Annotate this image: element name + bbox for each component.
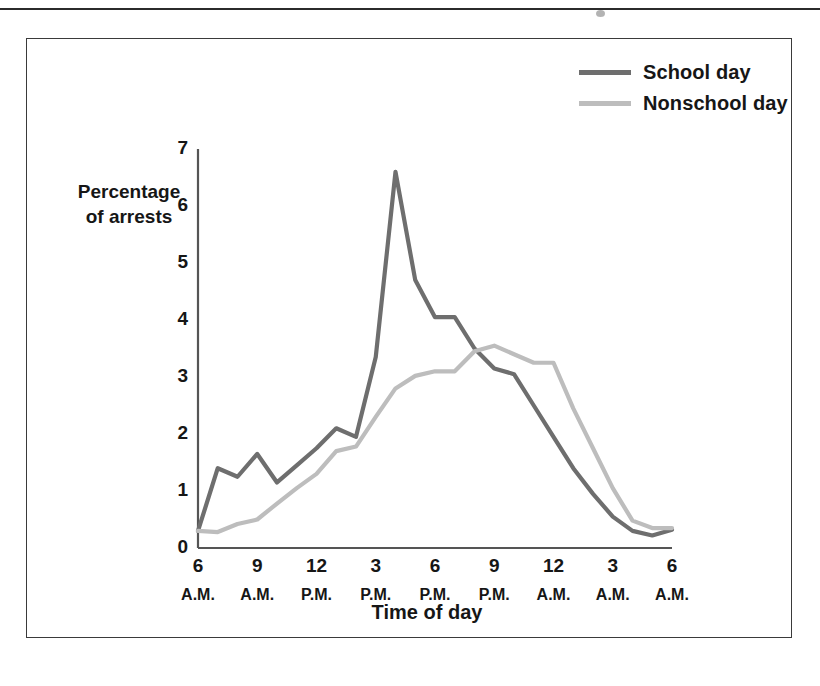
x-tick-label-hour: 6 — [405, 555, 465, 577]
x-tick-label-hour: 9 — [227, 555, 287, 577]
page-rule-mark-icon — [596, 10, 605, 17]
x-tick-label-hour: 3 — [346, 555, 406, 577]
x-tick-label-hour: 12 — [524, 555, 584, 577]
y-tick-label: 3 — [162, 365, 188, 387]
y-tick-label: 4 — [162, 308, 188, 330]
x-tick-label-hour: 6 — [642, 555, 702, 577]
x-tick-label-meridiem: A.M. — [642, 586, 702, 604]
y-tick-label: 2 — [162, 422, 188, 444]
x-tick-label-hour: 9 — [464, 555, 524, 577]
plot-area: 01234567 6A.M.9A.M.12P.M.3P.M.6P.M.9P.M.… — [27, 39, 793, 639]
y-tick-label: 6 — [162, 194, 188, 216]
x-tick-label-meridiem: A.M. — [168, 586, 228, 604]
x-tick-label-hour: 12 — [287, 555, 347, 577]
y-tick-label: 5 — [162, 251, 188, 273]
chart-series-group — [198, 172, 672, 536]
y-tick-label: 7 — [162, 137, 188, 159]
y-tick-label: 1 — [162, 479, 188, 501]
figure-container: School day Nonschool day Percentage of a… — [26, 38, 792, 638]
x-tick-label-hour: 6 — [168, 555, 228, 577]
x-tick-label-meridiem: A.M. — [583, 586, 643, 604]
page-top-rule — [0, 8, 820, 10]
chart-axes — [198, 149, 672, 548]
x-axis-title: Time of day — [277, 601, 577, 624]
series-line-school-day — [198, 172, 672, 536]
line-chart-svg — [27, 39, 793, 639]
x-tick-label-hour: 3 — [583, 555, 643, 577]
